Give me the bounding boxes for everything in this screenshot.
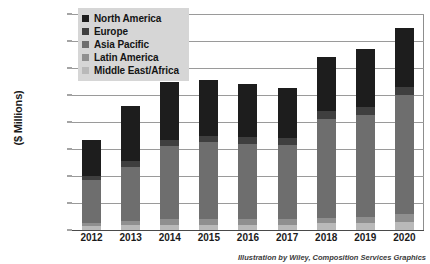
legend-item-middle-east-africa[interactable]: Middle East/Africa	[82, 64, 179, 77]
y-axis-title: ($ Millions)	[12, 48, 24, 188]
bar-segment	[278, 145, 297, 219]
bar-segment	[199, 136, 218, 143]
x-axis-tick-label: 2014	[150, 232, 189, 248]
bar-group	[268, 14, 307, 230]
bar-segment	[238, 137, 257, 144]
bar-segment	[238, 144, 257, 220]
bar-segment	[82, 226, 101, 230]
legend-swatch-icon	[82, 15, 89, 22]
bar-segment	[160, 140, 179, 147]
chart-legend: North AmericaEuropeAsia PacificLatin Ame…	[78, 8, 189, 81]
bar-segment	[278, 138, 297, 145]
bar-segment	[356, 115, 375, 216]
bar-segment	[160, 146, 179, 219]
x-axis-tick-label: 2016	[229, 232, 268, 248]
legend-item-asia-pacific[interactable]: Asia Pacific	[82, 38, 179, 51]
x-axis-tick-label: 2013	[111, 232, 150, 248]
gridline	[72, 230, 424, 231]
bar-segment	[317, 111, 336, 119]
bar-group	[307, 14, 346, 230]
stacked-bar-chart: ($ Millions) $80,000$70,000$60,000$50,00…	[0, 0, 430, 264]
bar-segment	[199, 142, 218, 219]
stacked-bar	[199, 80, 218, 230]
x-axis-tick-label: 2015	[190, 232, 229, 248]
bar-segment	[199, 80, 218, 135]
stacked-bar	[121, 106, 140, 230]
bar-segment	[121, 106, 140, 161]
legend-swatch-icon	[82, 54, 89, 61]
legend-item-label: Latin America	[94, 52, 158, 63]
stacked-bar	[278, 88, 297, 230]
bar-segment	[121, 167, 140, 221]
bar-segment	[395, 214, 414, 222]
bar-segment	[356, 107, 375, 115]
bar-segment	[199, 225, 218, 230]
bar-segment	[160, 82, 179, 140]
x-axis-tick-label: 2020	[385, 232, 424, 248]
bar-segment	[160, 225, 179, 230]
bar-segment	[317, 223, 336, 230]
stacked-bar	[238, 84, 257, 230]
x-axis-tick-labels: 201220132014201520162017201820192020	[72, 232, 424, 248]
stacked-bar	[356, 49, 375, 230]
stacked-bar	[395, 28, 414, 230]
stacked-bar	[160, 82, 179, 230]
bar-segment	[238, 84, 257, 137]
bar-segment	[395, 28, 414, 87]
legend-item-label: Middle East/Africa	[94, 65, 179, 76]
bar-segment	[356, 49, 375, 107]
bar-segment	[395, 87, 414, 95]
legend-item-north-america[interactable]: North America	[82, 12, 179, 25]
legend-item-label: North America	[94, 13, 161, 24]
bar-segment	[395, 222, 414, 230]
bar-segment	[238, 225, 257, 230]
legend-item-label: Asia Pacific	[94, 39, 149, 50]
bar-group	[385, 14, 424, 230]
stacked-bar	[317, 57, 336, 230]
bar-segment	[82, 140, 101, 176]
bar-segment	[356, 217, 375, 224]
legend-item-latin-america[interactable]: Latin America	[82, 51, 179, 64]
bar-group	[190, 14, 229, 230]
x-axis-tick-label: 2012	[72, 232, 111, 248]
bar-segment	[82, 180, 101, 223]
bar-segment	[395, 95, 414, 214]
bar-segment	[356, 223, 375, 230]
stacked-bar	[82, 140, 101, 230]
x-axis-tick-label: 2018	[307, 232, 346, 248]
bar-segment	[121, 225, 140, 230]
legend-swatch-icon	[82, 28, 89, 35]
bar-segment	[278, 88, 297, 138]
attribution-caption: Illustration by Wiley, Composition Servi…	[238, 253, 426, 262]
legend-item-europe[interactable]: Europe	[82, 25, 179, 38]
x-axis-tick-label: 2017	[268, 232, 307, 248]
bar-group	[229, 14, 268, 230]
bar-segment	[278, 225, 297, 230]
bar-segment	[317, 57, 336, 111]
legend-swatch-icon	[82, 41, 89, 48]
legend-swatch-icon	[82, 67, 89, 74]
bar-segment	[317, 119, 336, 218]
bar-group	[346, 14, 385, 230]
x-axis-tick-label: 2019	[346, 232, 385, 248]
legend-item-label: Europe	[94, 26, 128, 37]
